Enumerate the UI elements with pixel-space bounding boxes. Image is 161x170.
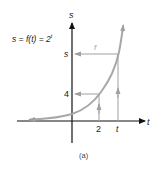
- figure-caption: (a): [79, 151, 89, 160]
- x-tick-2: 2: [96, 124, 101, 134]
- y-tick-s: s: [64, 49, 69, 59]
- exponential-diagram: s t s = f(t) = 2t s 4 2 t f (a): [0, 0, 161, 170]
- y-tick-4: 4: [64, 89, 69, 99]
- x-tick-t: t: [116, 124, 119, 134]
- function-f-label: f: [94, 43, 97, 52]
- y-axis-label: s: [69, 10, 74, 20]
- equation-label: s = f(t) = 2t: [12, 33, 53, 44]
- curve-top-arrow: [123, 25, 124, 32]
- x-axis-label: t: [147, 117, 150, 127]
